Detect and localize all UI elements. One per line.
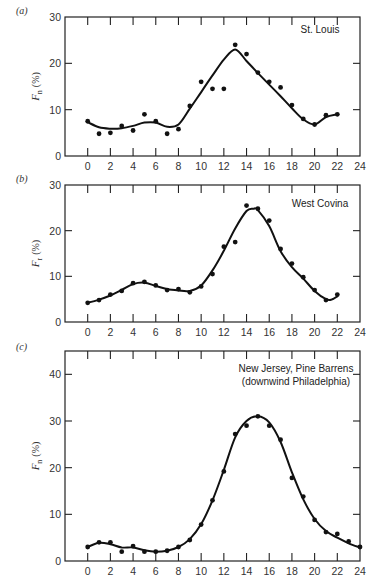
- data-point: [210, 498, 215, 503]
- y-tick-label: 0: [55, 555, 61, 567]
- x-tick-label: 14: [241, 326, 253, 338]
- x-tick-label: 8: [176, 565, 182, 577]
- data-point: [244, 423, 249, 428]
- x-tick-label: 12: [218, 160, 230, 172]
- x-tick-label: 24: [354, 326, 366, 338]
- data-point: [346, 539, 351, 544]
- x-tick-label: 0: [85, 565, 91, 577]
- x-tick-label: 4: [130, 565, 136, 577]
- data-point: [199, 284, 204, 289]
- data-point: [278, 437, 283, 442]
- chart-panel-a: (a)0246810121416182022240102030Fn(%)St. …: [16, 5, 366, 172]
- data-point: [301, 117, 306, 122]
- data-point: [301, 494, 306, 499]
- y-tick-label: 30: [49, 11, 61, 23]
- data-point: [176, 545, 181, 550]
- x-tick-label: 20: [309, 326, 321, 338]
- x-tick-label: 4: [130, 326, 136, 338]
- x-tick-label: 22: [331, 160, 343, 172]
- data-point: [176, 127, 181, 132]
- x-tick-label: 12: [218, 326, 230, 338]
- data-point: [278, 85, 283, 90]
- x-tick-label: 16: [263, 565, 275, 577]
- data-point: [97, 131, 102, 136]
- data-point: [255, 206, 260, 211]
- panel-label: (a): [16, 5, 28, 17]
- data-point: [267, 218, 272, 223]
- y-axis-label: Fn(%): [29, 72, 44, 102]
- panel-annotation: New Jersey, Pine Barrens: [239, 363, 354, 374]
- data-point: [97, 540, 102, 545]
- data-point: [210, 272, 215, 277]
- chart-panel-c: (c)024681012141618202224010203040Fn(%)Ne…: [16, 341, 366, 577]
- data-point: [97, 298, 102, 303]
- data-point: [255, 70, 260, 75]
- data-point: [85, 545, 90, 550]
- x-tick-label: 16: [263, 326, 275, 338]
- data-point: [324, 298, 329, 303]
- x-tick-label: 10: [195, 565, 207, 577]
- data-point: [301, 275, 306, 280]
- y-tick-label: 0: [55, 316, 61, 328]
- data-point: [142, 549, 147, 554]
- data-point: [312, 288, 317, 293]
- data-point: [244, 52, 249, 57]
- x-tick-label: 22: [331, 326, 343, 338]
- fitted-curve: [88, 416, 360, 551]
- y-axis-label: Fn(%): [29, 442, 44, 472]
- data-point: [233, 432, 238, 437]
- x-tick-label: 20: [309, 160, 321, 172]
- x-tick-label: 8: [176, 326, 182, 338]
- x-tick-label: 12: [218, 565, 230, 577]
- x-tick-label: 0: [85, 326, 91, 338]
- data-point: [153, 283, 158, 288]
- data-point: [165, 288, 170, 293]
- data-point: [85, 119, 90, 124]
- data-point: [255, 414, 260, 419]
- data-point: [358, 545, 363, 550]
- y-tick-label: 10: [49, 104, 61, 116]
- y-axis-label: Fr(%): [29, 240, 44, 268]
- y-tick-label: 30: [49, 415, 61, 427]
- figure: (a)0246810121416182022240102030Fn(%)St. …: [0, 0, 372, 580]
- x-tick-label: 16: [263, 160, 275, 172]
- data-point: [221, 86, 226, 91]
- y-tick-label: 0: [55, 150, 61, 162]
- data-point: [199, 522, 204, 527]
- x-tick-label: 0: [85, 160, 91, 172]
- x-tick-label: 2: [107, 565, 113, 577]
- data-point: [108, 292, 113, 297]
- data-point: [278, 247, 283, 252]
- x-tick-label: 18: [286, 160, 298, 172]
- data-point: [290, 476, 295, 481]
- fitted-curve: [88, 208, 338, 303]
- data-point: [119, 549, 124, 554]
- x-tick-label: 6: [153, 326, 159, 338]
- y-tick-label: 20: [49, 462, 61, 474]
- x-tick-label: 2: [107, 326, 113, 338]
- data-point: [199, 79, 204, 84]
- x-tick-label: 6: [153, 160, 159, 172]
- x-tick-label: 24: [354, 565, 366, 577]
- panel-annotation: St. Louis: [301, 24, 340, 35]
- data-point: [267, 79, 272, 84]
- data-point: [119, 123, 124, 128]
- data-point: [221, 244, 226, 249]
- data-point: [187, 104, 192, 109]
- data-point: [142, 279, 147, 284]
- x-tick-label: 2: [107, 160, 113, 172]
- x-tick-label: 14: [241, 160, 253, 172]
- x-tick-label: 24: [354, 160, 366, 172]
- data-point: [131, 544, 136, 549]
- x-tick-label: 18: [286, 326, 298, 338]
- data-point: [187, 538, 192, 543]
- data-point: [233, 42, 238, 47]
- x-tick-label: 22: [331, 565, 343, 577]
- data-point: [153, 119, 158, 124]
- data-point: [324, 530, 329, 535]
- data-point: [165, 131, 170, 136]
- data-point: [153, 549, 158, 554]
- data-point: [324, 113, 329, 118]
- panel-annotation: West Covina: [292, 198, 349, 209]
- data-point: [290, 103, 295, 108]
